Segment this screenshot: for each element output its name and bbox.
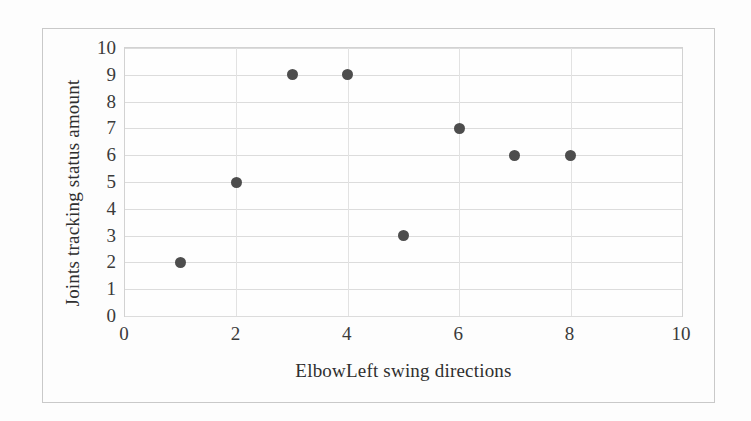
gridline-vertical (459, 48, 460, 316)
x-tick-label: 6 (428, 324, 488, 343)
gridline-horizontal (125, 316, 682, 317)
scatter-plot-screenshot: 012345678910 0246810 ElbowLeft swing dir… (0, 0, 751, 421)
data-point (398, 230, 409, 241)
x-axis-tick-labels: 0246810 (124, 324, 683, 350)
gridline-horizontal (125, 102, 682, 103)
data-point (175, 257, 186, 268)
y-axis-title: Joints tracking status amount (62, 43, 84, 343)
gridline-horizontal (125, 182, 682, 183)
data-point (509, 150, 520, 161)
gridline-horizontal (125, 289, 682, 290)
x-tick-label: 8 (540, 324, 600, 343)
x-tick-label: 4 (317, 324, 377, 343)
x-tick-label: 10 (651, 324, 711, 343)
data-point (342, 69, 353, 80)
x-tick-label: 2 (205, 324, 265, 343)
data-point (565, 150, 576, 161)
gridline-vertical (348, 48, 349, 316)
gridline-horizontal (125, 75, 682, 76)
gridline-horizontal (125, 128, 682, 129)
data-point (287, 69, 298, 80)
gridline-horizontal (125, 48, 682, 49)
plot-area (124, 47, 683, 317)
gridline-horizontal (125, 262, 682, 263)
x-axis-title: ElbowLeft swing directions (124, 360, 683, 382)
data-point (231, 177, 242, 188)
data-point (454, 123, 465, 134)
gridline-vertical (571, 48, 572, 316)
gridline-horizontal (125, 155, 682, 156)
gridline-horizontal (125, 209, 682, 210)
x-tick-label: 0 (94, 324, 154, 343)
